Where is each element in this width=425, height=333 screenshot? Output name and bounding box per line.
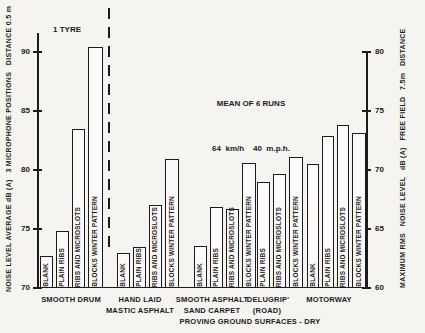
bar-label: RIBS AND MICROSLOTS [75,205,82,287]
bar-label: RIBS AND MICROSLOTS [229,205,236,287]
left-axis-tick-label: 90 [16,47,30,57]
bar-hand-laid-mastic-asphalt-blocks-winter-pattern: BLOCKS WINTER PATTERN [165,159,179,288]
bar-smooth-drum-blocks-winter-pattern: BLOCKS WINTER PATTERN [88,47,103,288]
right-axis-tick-label: 65 [375,224,391,234]
surface-group-label: HAND LAID [118,295,161,304]
surface-group-label: MASTIC ASPHALT [106,306,174,315]
left-axis-tick-label: 70 [16,283,30,293]
left-axis-tick [33,228,42,230]
bar-smooth-asphalt-sand-carpet-plain-ribs: PLAIN RIBS [210,207,223,288]
mean-annotation-line2: 64 km/h 40 m.p.h. [212,141,290,156]
bar-label: BLANK [43,261,50,287]
right-axis-tick-label: 80 [375,47,391,57]
bar-hand-laid-mastic-asphalt-blank: BLANK [117,253,130,288]
bar-label: RIBS AND MICROSLOTS [152,205,159,287]
left-axis-title: NOISE LEVEL AVERAGE dB (A) 3 MICROPHONE … [4,40,14,292]
bar-label: BLOCKS WINTER PATTERN [169,194,176,287]
bar-smooth-drum-plain-ribs: PLAIN RIBS [56,231,69,288]
scale-separator-dashed-line [108,8,110,248]
left-axis-line [37,33,39,288]
bar-label: BLOCKS WINTER PATTERN [356,194,363,287]
bar-delugrip-road-ribs-and-microslots: RIBS AND MICROSLOTS [273,174,286,288]
bar-label: BLANK [120,261,127,287]
bar-smooth-asphalt-sand-carpet-blocks-winter-pattern: BLOCKS WINTER PATTERN [242,163,256,288]
right-axis-tick [362,51,371,53]
right-axis-tick-label: 60 [375,283,391,293]
bar-label: PLAIN RIBS [325,246,332,287]
bar-label: BLANK [197,261,204,287]
tyre-noise-bar-chart: NOISE LEVEL AVERAGE dB (A) 3 MICROPHONE … [0,0,425,333]
bar-smooth-drum-ribs-and-microslots: RIBS AND MICROSLOTS [72,129,85,288]
bar-label: BLOCKS WINTER PATTERN [293,194,300,287]
bar-motorway-blocks-winter-pattern: BLOCKS WINTER PATTERN [352,133,366,288]
bar-label: BLOCKS WINTER PATTERN [246,194,253,287]
right-axis-tick-label: 70 [375,165,391,175]
bar-label: BLANK [310,261,317,287]
left-axis-tick-label: 75 [16,224,30,234]
mean-annotation-line1: MEAN OF 6 RUNS [212,96,290,111]
surface-group-label: 'DELUGRIP' [245,295,289,304]
left-axis-tick [33,51,42,53]
bar-motorway-blank: BLANK [307,164,319,288]
bar-smooth-asphalt-sand-carpet-blank: BLANK [194,246,207,288]
surface-group-label: SMOOTH ASPHALT [176,295,248,304]
surface-group-label: (ROAD) [253,306,281,315]
bar-label: PLAIN RIBS [136,246,143,287]
bar-label: BLOCKS WINTER PATTERN [92,194,99,287]
bar-label: PLAIN RIBS [213,246,220,287]
surface-group-label: MOTORWAY [306,295,352,304]
bar-hand-laid-mastic-asphalt-plain-ribs: PLAIN RIBS [133,247,146,288]
bar-hand-laid-mastic-asphalt-ribs-and-microslots: RIBS AND MICROSLOTS [149,205,162,288]
bar-motorway-ribs-and-microslots: RIBS AND MICROSLOTS [337,125,349,288]
left-axis-tick-label: 80 [16,165,30,175]
bar-delugrip-road-plain-ribs: PLAIN RIBS [257,182,270,288]
right-axis-tick-label: 75 [375,106,391,116]
left-axis-tick [33,110,42,112]
bar-label: RIBS AND MICROSLOTS [340,205,347,287]
bar-label: PLAIN RIBS [260,246,267,287]
surface-group-label: SAND CARPET [184,306,240,315]
surface-group-label: SMOOTH DRUM [41,295,101,304]
left-axis-tick [33,169,42,171]
bar-smooth-drum-blank: BLANK [40,256,53,288]
x-axis-caption: PROVING GROUND SURFACES - DRY [180,317,321,326]
right-axis-tick [362,110,371,112]
bar-label: RIBS AND MICROSLOTS [276,205,283,287]
tyre-count-note: 1 TYRE [53,25,81,34]
bar-delugrip-road-blocks-winter-pattern: BLOCKS WINTER PATTERN [289,157,303,288]
bar-motorway-plain-ribs: PLAIN RIBS [322,136,334,288]
bar-label: PLAIN RIBS [59,246,66,287]
left-axis-tick-label: 85 [16,106,30,116]
bar-smooth-asphalt-sand-carpet-ribs-and-microslots: RIBS AND MICROSLOTS [226,209,239,288]
right-axis-title: MAXIMUM RMS NOISE LEVEL dB (A) FREE FIEL… [398,50,408,288]
